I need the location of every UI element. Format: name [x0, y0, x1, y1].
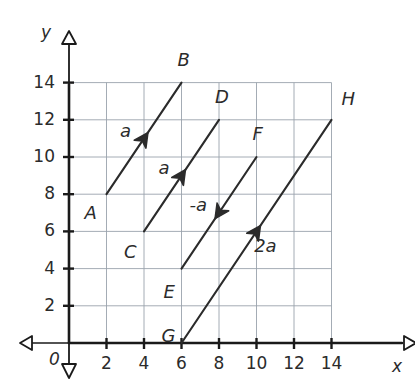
- point-label-B: B: [178, 49, 190, 70]
- origin-label: 0: [49, 349, 60, 369]
- y-tick-label: 10: [33, 146, 55, 166]
- x-tick-label: 6: [176, 353, 187, 373]
- point-label-C: C: [124, 241, 137, 262]
- y-tick-label: 4: [44, 258, 55, 278]
- vector-label-two-a: 2a: [254, 235, 276, 256]
- x-axis-name: x: [392, 356, 402, 376]
- y-axis-arrow-down-icon: [62, 364, 76, 378]
- y-tick-label: 6: [44, 220, 55, 240]
- x-tick-label: 14: [321, 353, 343, 373]
- point-label-A: A: [85, 202, 97, 223]
- y-axis-arrow-up-icon: [62, 31, 76, 44]
- y-tick-label: 2: [44, 295, 55, 315]
- y-tick-label: 8: [44, 183, 55, 203]
- point-label-H: H: [342, 88, 356, 109]
- vector-label-a-cd: a: [159, 157, 170, 178]
- x-axis-arrow-left-icon: [20, 336, 32, 350]
- figure-canvas: [0, 0, 415, 391]
- coordinate-plane-figure: ABCDEFGHaa-a2a246810121424681012140xy: [0, 0, 415, 391]
- point-label-D: D: [215, 86, 229, 107]
- point-label-G: G: [162, 325, 176, 346]
- point-label-F: F: [253, 123, 263, 144]
- y-axis-name: y: [41, 22, 51, 42]
- x-axis-arrow-right-icon: [404, 336, 415, 350]
- x-tick-label: 4: [139, 353, 150, 373]
- x-tick-label: 2: [101, 353, 112, 373]
- y-tick-label: 14: [33, 72, 55, 92]
- x-tick-label: 8: [214, 353, 225, 373]
- x-tick-label: 12: [283, 353, 305, 373]
- y-tick-label: 12: [33, 109, 55, 129]
- point-label-E: E: [164, 281, 175, 302]
- x-tick-label: 10: [246, 353, 268, 373]
- vector-label-a-ab: a: [120, 120, 131, 141]
- vector-label-neg-a: -a: [189, 194, 207, 215]
